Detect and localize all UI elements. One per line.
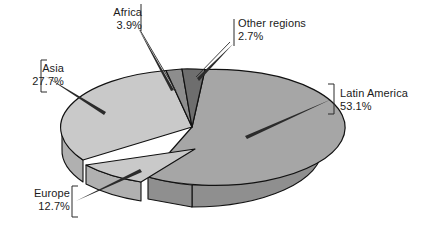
- callout-name-asia: Asia: [42, 62, 64, 74]
- callout-name-other-regions: Other regions: [238, 17, 306, 29]
- pie-chart: Africa 3.9% Other regions 2.7% Asia 27.7…: [0, 0, 421, 227]
- callout-name-africa: Africa: [113, 6, 142, 18]
- callout-pct-asia: 27.7%: [6, 75, 64, 88]
- callout-pct-africa: 3.9%: [82, 19, 142, 32]
- callout-name-latin-america: Latin America: [340, 87, 408, 99]
- callout-label-latin-america: Latin America 53.1%: [340, 87, 408, 112]
- callout-pct-europe: 12.7%: [14, 200, 70, 213]
- leader-europe-bracket: [72, 186, 78, 217]
- pie-top-faces: [61, 69, 346, 185]
- callout-pct-latin-america: 53.1%: [340, 100, 408, 113]
- callout-label-africa: Africa 3.9%: [82, 6, 142, 31]
- callout-label-asia: Asia 27.7%: [6, 62, 64, 87]
- callout-label-other-regions: Other regions 2.7%: [238, 17, 306, 42]
- callout-pct-other-regions: 2.7%: [238, 30, 306, 43]
- callout-name-europe: Europe: [34, 187, 70, 199]
- callout-label-europe: Europe 12.7%: [14, 187, 70, 212]
